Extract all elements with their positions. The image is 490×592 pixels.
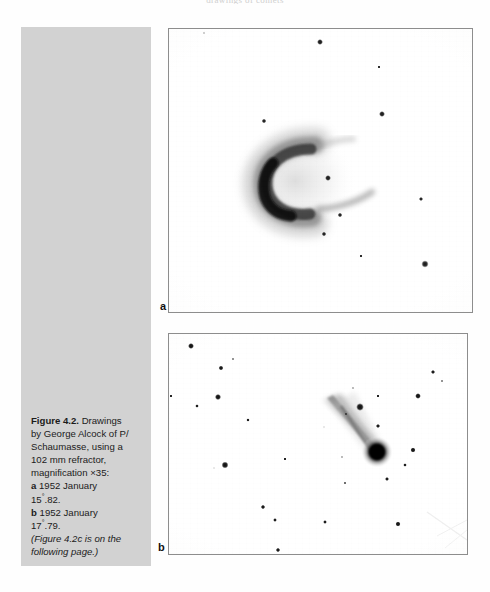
caption-line-5: magnification ×35: [31, 466, 149, 479]
caption-entry-a-value-num: 15 [31, 494, 42, 505]
caption-entry-b: b 1952 January [31, 506, 149, 519]
caption-entry-a-key: a [31, 480, 36, 491]
running-head: drawings of comets [0, 0, 490, 4]
caption-entry-a-value-frac: .82. [44, 494, 60, 505]
panel-label-b: b [158, 541, 165, 553]
caption-note-line-2: following page.) [31, 545, 149, 558]
caption-entry-a-value: 15°.82. [31, 493, 149, 506]
caption-note-line-1: (Figure 4.2c is on the [31, 532, 149, 545]
panel-label-a: a [160, 300, 166, 312]
caption-entry-b-date: 1952 January [40, 507, 98, 518]
caption-line-4: 102 mm refractor, [31, 453, 149, 466]
figure-caption-panel: Figure 4.2. Drawings by George Alcock of… [21, 27, 151, 566]
caption-entry-b-value-frac: .79. [44, 520, 60, 531]
figure-caption-text: Figure 4.2. Drawings by George Alcock of… [31, 414, 149, 558]
caption-line-3: Schaumasse, using a [31, 440, 149, 453]
caption-line-1: Drawings [82, 415, 122, 426]
caption-entry-b-key: b [31, 507, 37, 518]
caption-entry-b-value-num: 17 [31, 520, 42, 531]
figure-number: Figure 4.2. [31, 415, 79, 426]
caption-entry-b-value: 17°.79. [31, 519, 149, 532]
plate-b-paper-grain [169, 334, 467, 554]
comet-drawing-a [168, 28, 473, 313]
caption-entry-a: a 1952 January [31, 479, 149, 492]
comet-drawing-b [168, 333, 468, 555]
caption-entry-a-date: 1952 January [39, 480, 97, 491]
caption-line-2: by George Alcock of P/ [31, 427, 149, 440]
plate-a-paper-grain [169, 29, 472, 312]
